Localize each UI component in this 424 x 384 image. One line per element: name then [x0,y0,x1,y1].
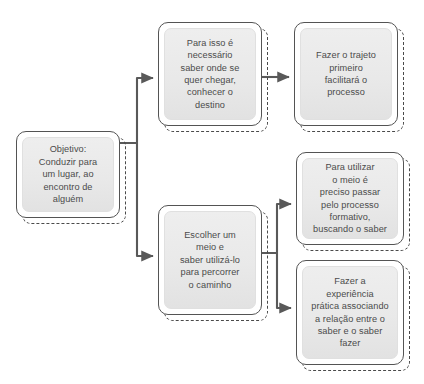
connector-meio-to-pratica [277,253,291,308]
node-fill: Para isso é necessário saber onde se que… [164,28,256,120]
node-label: Objetivo: Conduzir para um lugar, ao enc… [23,143,113,205]
node-fill: Objetivo: Conduzir para um lugar, ao enc… [22,137,114,212]
node-label: Fazer o trajeto primeiro facilitará o pr… [301,49,391,99]
node-pratica[interactable]: Fazer a experiência prática associando a… [296,260,404,365]
node-fill: Para utilizar o meio é preciso passar pe… [302,158,398,239]
node-solid-outline: Escolher um meio e saber utilizá-lo para… [158,205,262,315]
node-label: Escolher um meio e saber utilizá-lo para… [165,229,255,291]
node-solid-outline: Para isso é necessário saber onde se que… [158,22,262,126]
node-solid-outline: Objetivo: Conduzir para um lugar, ao enc… [16,131,120,218]
node-objetivo[interactable]: Objetivo: Conduzir para um lugar, ao enc… [16,131,120,218]
node-label: Fazer a experiência prática associando a… [303,275,397,349]
node-fill: Fazer a experiência prática associando a… [302,266,398,359]
node-solid-outline: Para utilizar o meio é preciso passar pe… [296,152,404,245]
node-fill: Fazer o trajeto primeiro facilitará o pr… [300,28,392,120]
node-fill: Escolher um meio e saber utilizá-lo para… [164,211,256,309]
node-meio[interactable]: Escolher um meio e saber utilizá-lo para… [158,205,262,315]
connector-objetivo-to-meio [137,143,153,256]
node-destino[interactable]: Para isso é necessário saber onde se que… [158,22,262,126]
node-solid-outline: Fazer a experiência prática associando a… [296,260,404,365]
connector-objetivo-to-destino [120,78,153,143]
node-label: Para isso é necessário saber onde se que… [165,37,255,111]
node-solid-outline: Fazer o trajeto primeiro facilitará o pr… [294,22,398,126]
node-formativo[interactable]: Para utilizar o meio é preciso passar pe… [296,152,404,245]
node-label: Para utilizar o meio é preciso passar pe… [303,161,397,235]
node-trajeto[interactable]: Fazer o trajeto primeiro facilitará o pr… [294,22,398,126]
flowchart-diagram: Objetivo: Conduzir para um lugar, ao enc… [0,0,424,384]
